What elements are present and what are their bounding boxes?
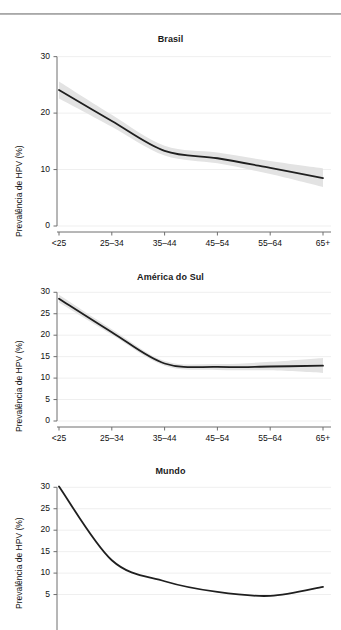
x-axis-tick-label: 55–64 <box>245 433 295 443</box>
y-axis-tick-label: 0 <box>16 415 50 425</box>
chart-svg <box>57 483 331 630</box>
chart-panel-mundo: Mundo Prevalência de HPV (%) 51015202530 <box>0 466 341 610</box>
chart-panel-brasil: Brasil Prevalência de HPV (%) 0102030<25… <box>0 34 341 264</box>
x-axis-tick-label: <25 <box>34 238 84 248</box>
x-axis-tick-label: 35–44 <box>140 238 190 248</box>
y-axis-tick-label: 5 <box>16 394 50 404</box>
x-axis-tick-label: 35–44 <box>140 433 190 443</box>
y-axis-tick-label: 25 <box>16 308 50 318</box>
x-axis-tick-label: 65+ <box>298 238 341 248</box>
y-axis-tick-label: 5 <box>16 589 50 599</box>
confidence-band <box>59 295 323 373</box>
y-axis-tick-label: 30 <box>16 286 50 296</box>
x-axis-tick-label: 55–64 <box>245 238 295 248</box>
y-axis-tick-label: 30 <box>16 481 50 491</box>
y-axis-tick-label: 0 <box>16 220 50 230</box>
x-axis-tick-label: 45–54 <box>192 433 242 443</box>
chart-svg <box>57 51 331 240</box>
y-axis-tick-label: 10 <box>16 372 50 382</box>
panel-title-america-do-sul: América do Sul <box>0 272 341 282</box>
x-axis-tick-label: <25 <box>34 433 84 443</box>
y-axis-tick-label: 20 <box>16 329 50 339</box>
y-axis-tick-label: 20 <box>16 107 50 117</box>
x-axis-tick-label: 45–54 <box>192 238 242 248</box>
plot-area-mundo <box>57 483 331 616</box>
x-axis-tick-label: 25–34 <box>87 238 137 248</box>
y-axis-tick-label: 25 <box>16 503 50 513</box>
plot-area-brasil <box>57 51 331 226</box>
panel-title-mundo: Mundo <box>0 466 341 476</box>
x-axis-tick-label: 25–34 <box>87 433 137 443</box>
y-axis-tick-label: 20 <box>16 524 50 534</box>
x-axis-tick-label: 65+ <box>298 433 341 443</box>
y-axis-tick-label: 10 <box>16 164 50 174</box>
y-axis-tick-label: 15 <box>16 351 50 361</box>
chart-panel-america-do-sul: América do Sul Prevalência de HPV (%) 05… <box>0 272 341 462</box>
y-axis-tick-label: 15 <box>16 546 50 556</box>
series-line <box>59 486 323 596</box>
y-axis-tick-label: 30 <box>16 51 50 61</box>
plot-area-america-do-sul <box>57 288 331 421</box>
y-axis-tick-label: 10 <box>16 567 50 577</box>
top-horizontal-rule <box>0 13 341 15</box>
panel-title-brasil: Brasil <box>0 34 341 44</box>
chart-svg <box>57 288 331 435</box>
